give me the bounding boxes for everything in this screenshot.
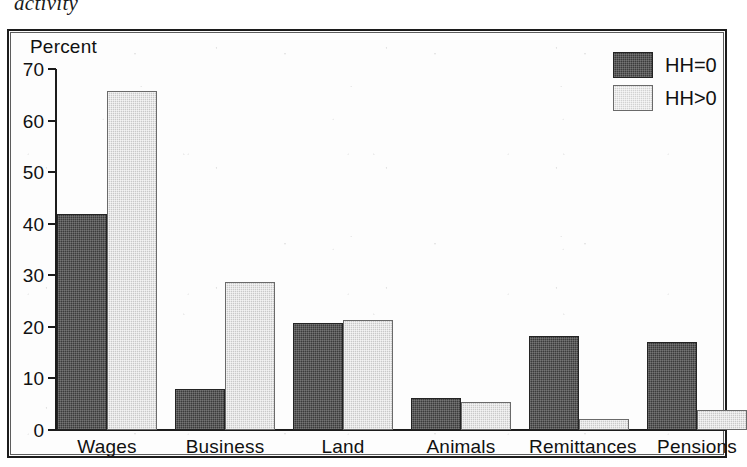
x-axis-label-wages: Wages	[57, 436, 157, 458]
bar-pensions-hh-eq-0	[647, 342, 697, 430]
bar-animals-hh-eq-0	[411, 398, 461, 430]
dark-swatch	[613, 52, 653, 78]
bar-land-hh-eq-0	[293, 323, 343, 430]
x-axis-label-remittances: Remittances	[529, 436, 629, 458]
bar-land-hh-gt-0	[343, 320, 393, 430]
x-axis-label-animals: Animals	[411, 436, 511, 458]
bar-remittances-hh-eq-0	[529, 336, 579, 430]
x-axis-label-land: Land	[293, 436, 393, 458]
bar-animals-hh-gt-0	[461, 402, 511, 430]
bar-business-hh-gt-0	[225, 282, 275, 430]
bar-pensions-hh-gt-0	[697, 410, 747, 430]
bar-business-hh-eq-0	[175, 389, 225, 430]
x-axis-label-pensions: Pensions	[647, 436, 747, 458]
x-axis-label-business: Business	[175, 436, 275, 458]
legend-label: HH>0	[665, 83, 717, 113]
bar-remittances-hh-gt-0	[579, 419, 629, 430]
light-swatch	[613, 85, 653, 111]
bar-wages-hh-eq-0	[57, 214, 107, 430]
bar-wages-hh-gt-0	[107, 91, 157, 430]
legend-label: HH=0	[665, 50, 717, 80]
